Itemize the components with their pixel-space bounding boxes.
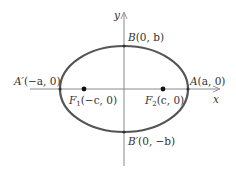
focus-left-label: F1(−c, 0) xyxy=(69,95,117,106)
vertex-left-name: A′ xyxy=(14,75,24,87)
focus-right-coords: (c, 0) xyxy=(157,94,184,106)
focus-right-label: F2(c, 0) xyxy=(145,95,184,106)
vertex-right-label: A(a, 0) xyxy=(190,76,225,87)
focus-left-coords: (−c, 0) xyxy=(81,94,117,106)
covertex-top-name: B xyxy=(128,31,136,43)
covertex-bottom-point xyxy=(123,131,126,134)
y-axis-label: y xyxy=(114,10,120,21)
vertex-left-coords: (−a, 0) xyxy=(24,75,61,87)
covertex-bottom-coords: (0, −b) xyxy=(138,135,175,147)
covertex-bottom-name: B′ xyxy=(128,135,138,147)
covertex-top-label: B(0, b) xyxy=(128,32,164,43)
vertex-left-point xyxy=(59,88,62,91)
covertex-top-point xyxy=(123,45,126,48)
covertex-bottom-label: B′(0, −b) xyxy=(128,136,175,147)
focus-left-point xyxy=(82,87,87,92)
focus-right-point xyxy=(161,87,166,92)
vertex-right-coords: (a, 0) xyxy=(198,75,226,87)
ellipse-diagram xyxy=(0,0,236,174)
covertex-top-coords: (0, b) xyxy=(136,31,164,43)
vertex-right-name: A xyxy=(190,75,198,87)
vertex-right-point xyxy=(187,88,190,91)
vertex-left-label: A′(−a, 0) xyxy=(14,76,61,87)
x-axis-label: x xyxy=(213,94,219,105)
